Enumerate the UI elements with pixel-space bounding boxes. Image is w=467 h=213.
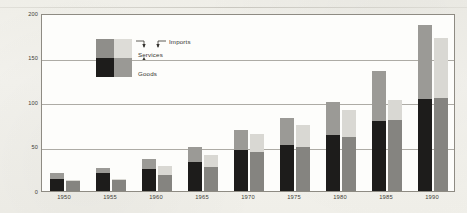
x-axis-tick-labels: 195019551960196519701975198019851990 xyxy=(41,194,455,210)
imports-1950-bar xyxy=(66,180,81,191)
exports-1960-goods-segment xyxy=(142,169,157,191)
y-tick-200: 200 xyxy=(4,11,38,17)
exports-1965-goods-segment xyxy=(188,162,203,191)
exports-1985-goods-segment xyxy=(372,121,387,191)
imports-1970-bar xyxy=(250,134,265,191)
exports-1950-bar xyxy=(50,173,65,191)
imports-1960-goods-segment xyxy=(158,175,173,191)
exports-1950-services-segment xyxy=(50,173,65,178)
imports-1985-bar xyxy=(388,100,403,191)
imports-1980-services-segment xyxy=(342,110,357,137)
imports-1955-services-segment xyxy=(112,179,127,181)
imports-1955-goods-segment xyxy=(112,180,127,191)
imports-1960-services-segment xyxy=(158,166,173,175)
imports-1965-bar xyxy=(204,155,219,191)
imports-1975-goods-segment xyxy=(296,147,311,192)
x-tick-1950: 1950 xyxy=(44,194,84,200)
imports-1970-services-segment xyxy=(250,134,265,152)
exports-1970-bar xyxy=(234,130,249,191)
imports-1950-goods-segment xyxy=(66,181,81,191)
exports-1980-goods-segment xyxy=(326,135,341,191)
exports-1990-bar xyxy=(418,25,433,191)
imports-1990-goods-segment xyxy=(434,98,449,191)
exports-1985-bar xyxy=(372,71,387,191)
chart-screenshot: 050100150200 Billions of 1972 Dollars Ex… xyxy=(0,0,467,213)
exports-1975-goods-segment xyxy=(280,145,295,191)
x-tick-1970: 1970 xyxy=(228,194,268,200)
exports-1990-services-segment xyxy=(418,25,433,100)
exports-1955-bar xyxy=(96,168,111,191)
exports-1985-services-segment xyxy=(372,71,387,121)
imports-1980-bar xyxy=(342,110,357,191)
exports-1975-bar xyxy=(280,118,295,191)
exports-1970-services-segment xyxy=(234,130,249,150)
x-tick-1985: 1985 xyxy=(366,194,406,200)
exports-1955-goods-segment xyxy=(96,173,111,191)
exports-1955-services-segment xyxy=(96,168,111,173)
imports-1965-goods-segment xyxy=(204,167,219,191)
y-tick-150: 150 xyxy=(4,55,38,61)
bar-group-container xyxy=(42,15,454,191)
exports-1980-bar xyxy=(326,102,341,191)
imports-1990-bar xyxy=(434,38,449,191)
exports-1960-services-segment xyxy=(142,159,157,169)
x-tick-1965: 1965 xyxy=(182,194,222,200)
plot-area: Exports Imports Services Goods xyxy=(41,14,455,192)
imports-1950-services-segment xyxy=(66,180,81,181)
x-tick-1955: 1955 xyxy=(90,194,130,200)
exports-1965-bar xyxy=(188,147,203,191)
y-axis-tick-labels: 050100150200 xyxy=(0,14,38,192)
x-tick-1990: 1990 xyxy=(412,194,452,200)
exports-1990-goods-segment xyxy=(418,99,433,191)
y-tick-100: 100 xyxy=(4,100,38,106)
exports-1970-goods-segment xyxy=(234,150,249,191)
imports-1985-services-segment xyxy=(388,100,403,120)
imports-1955-bar xyxy=(112,179,127,191)
exports-1965-services-segment xyxy=(188,147,203,161)
exports-1975-services-segment xyxy=(280,118,295,145)
x-tick-1960: 1960 xyxy=(136,194,176,200)
imports-1980-goods-segment xyxy=(342,137,357,191)
exports-1980-services-segment xyxy=(326,102,341,135)
exports-1960-bar xyxy=(142,159,157,191)
x-tick-1975: 1975 xyxy=(274,194,314,200)
x-tick-1980: 1980 xyxy=(320,194,360,200)
exports-1950-goods-segment xyxy=(50,179,65,191)
imports-1975-services-segment xyxy=(296,125,311,146)
imports-1985-goods-segment xyxy=(388,120,403,191)
imports-1970-goods-segment xyxy=(250,152,265,191)
y-tick-0: 0 xyxy=(4,189,38,195)
imports-1960-bar xyxy=(158,166,173,191)
imports-1965-services-segment xyxy=(204,155,219,167)
page-title-ghost xyxy=(120,0,360,7)
imports-1990-services-segment xyxy=(434,38,449,98)
top-divider-rule xyxy=(0,7,467,8)
imports-1975-bar xyxy=(296,125,311,191)
y-tick-50: 50 xyxy=(4,144,38,150)
